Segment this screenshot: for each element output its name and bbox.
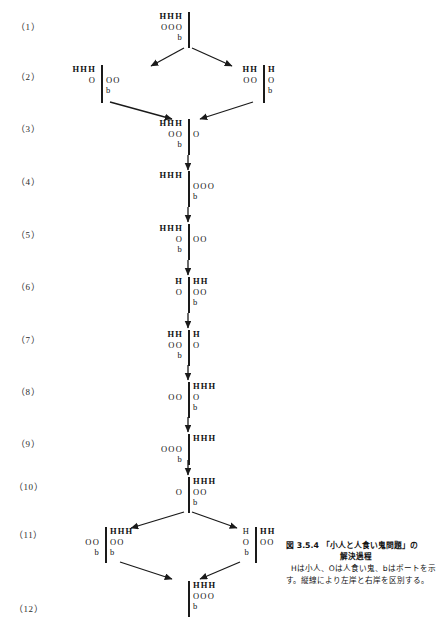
bank-row: b xyxy=(167,350,183,361)
step-label-2: （2） xyxy=(16,70,40,83)
bank-row xyxy=(193,223,208,234)
bank-row: OO xyxy=(160,129,183,140)
bank-row: OO xyxy=(106,75,121,86)
right-bank-6: HH OO b xyxy=(193,276,209,308)
step-label-1: （1） xyxy=(16,20,40,33)
bank-row: OOO xyxy=(160,22,183,33)
bank-row: b xyxy=(161,454,183,465)
bank-row: b xyxy=(193,297,209,308)
bank-row: O xyxy=(175,287,183,298)
river-bar xyxy=(188,382,190,418)
left-bank-11-left: OO b xyxy=(85,526,100,558)
step-label-4: （4） xyxy=(16,175,40,188)
bank-row: OO xyxy=(242,75,258,86)
right-bank-2-right: H O b xyxy=(268,64,276,96)
bank-row: HHH xyxy=(160,170,183,181)
left-bank-2-left: HHH O xyxy=(73,64,96,85)
figure-title-text-2: 解決過程 xyxy=(286,551,438,562)
bank-row: b xyxy=(160,139,183,150)
river-bar xyxy=(105,527,107,563)
figure-legend-text: Hは小人、Oは人食い鬼、bはボートを示す。縦線により左岸と右岸を区別する。 xyxy=(286,563,438,585)
river-bar xyxy=(188,581,190,617)
arrow-2-right-to-3 xyxy=(200,102,253,119)
bank-row: HH xyxy=(193,276,209,287)
bank-row xyxy=(176,476,183,487)
step-label-11: （11） xyxy=(14,528,43,541)
bank-row: b xyxy=(110,547,133,558)
right-bank-11-left: HHH OO b xyxy=(110,526,133,558)
bank-row: b xyxy=(160,32,183,43)
right-bank-2-left: OO b xyxy=(106,64,121,96)
river-bar xyxy=(101,65,103,103)
arrow-2-left-to-3 xyxy=(110,102,172,119)
left-bank-5: HHH O b xyxy=(160,223,183,255)
step-label-8: （8） xyxy=(16,385,40,398)
bank-row: OO xyxy=(110,537,133,548)
step-label-3: （3） xyxy=(16,122,40,135)
bank-row: OO xyxy=(193,287,209,298)
left-bank-6: H O xyxy=(175,276,183,297)
bank-row: HHH xyxy=(160,11,183,22)
bank-row: OOO xyxy=(161,444,183,455)
left-bank-7: HH OO b xyxy=(167,329,183,361)
bank-row: OOO xyxy=(193,591,216,602)
right-bank-7: H O xyxy=(193,329,201,350)
arrow-10-to-11-right xyxy=(192,512,237,528)
arrow-11-left-to-12 xyxy=(120,562,172,579)
bank-row: O xyxy=(73,75,96,86)
left-bank-4: HHH xyxy=(160,170,183,181)
bank-row xyxy=(193,170,215,181)
bank-row: b xyxy=(268,85,276,96)
step-label-5: （5） xyxy=(16,228,40,241)
right-bank-4: OOO b xyxy=(193,170,215,202)
bank-row: HHH xyxy=(193,433,216,444)
arrow-1-to-2-left xyxy=(151,48,184,66)
bank-row: b xyxy=(193,191,215,202)
bank-row: O xyxy=(243,537,250,548)
bank-row: HH xyxy=(260,526,276,537)
right-bank-9: HHH xyxy=(193,433,216,444)
bank-row xyxy=(85,526,100,537)
river-bar xyxy=(255,527,257,563)
right-bank-8: HHH O b xyxy=(193,381,216,413)
bank-row: HHH xyxy=(73,64,96,75)
bank-row: OO xyxy=(193,487,216,498)
bank-row: H xyxy=(175,276,183,287)
bank-row: OO xyxy=(167,340,183,351)
left-bank-1: HHH OOO b xyxy=(160,11,183,43)
bank-row: H xyxy=(193,329,201,340)
river-bar xyxy=(188,434,190,465)
step-label-6: （6） xyxy=(16,280,40,293)
bank-row: b xyxy=(193,402,216,413)
river-bar xyxy=(188,12,190,48)
bank-row: HHH xyxy=(193,381,216,392)
bank-row: H xyxy=(268,64,276,75)
bank-row xyxy=(193,118,200,129)
bank-row: HH xyxy=(167,329,183,340)
river-bar xyxy=(188,119,190,155)
bank-row: OO xyxy=(260,537,276,548)
bank-row: O xyxy=(193,129,200,140)
bank-row: b xyxy=(160,244,183,255)
bank-row: b xyxy=(193,601,216,612)
figure-number: 図 3.5.4 xyxy=(286,541,319,550)
bank-row xyxy=(168,381,183,392)
step-label-9: （9） xyxy=(16,437,40,450)
figure-caption: 図 3.5.4 「小人と人食い鬼問題」の 解決過程 Hは小人、Oは人食い鬼、bは… xyxy=(286,540,438,586)
bank-row: HHH xyxy=(193,580,216,591)
bank-row: O xyxy=(176,487,183,498)
right-bank-12: HHH OOO b xyxy=(193,580,216,612)
left-bank-8: OO xyxy=(168,381,183,402)
arrow-layer xyxy=(0,0,445,633)
bank-row: b xyxy=(243,547,250,558)
bank-row: OO xyxy=(193,234,208,245)
river-bar xyxy=(188,224,190,260)
step-label-10: （10） xyxy=(14,480,43,493)
figure-title-text: 「小人と人食い鬼問題」の xyxy=(322,541,418,550)
right-bank-5: OO xyxy=(193,223,208,244)
step-label-7: （7） xyxy=(16,333,40,346)
arrow-10-to-11-left xyxy=(131,512,184,528)
right-bank-3: O xyxy=(193,118,200,139)
bank-row: OO xyxy=(168,392,183,403)
arrow-1-to-2-right xyxy=(192,48,232,66)
